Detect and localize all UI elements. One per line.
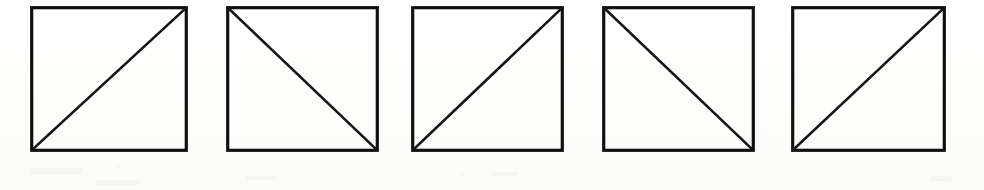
square-with-diagonal-4: [602, 6, 755, 152]
square-with-diagonal-5: [791, 6, 946, 152]
diagonal-bottom-left-to-top-right-5: [793, 8, 943, 149]
square-cell-2: [226, 6, 379, 152]
scan-smudge-1: [30, 168, 82, 174]
diagonal-top-left-to-bottom-right-2: [228, 8, 376, 149]
square-cell-3: [411, 6, 564, 152]
scan-smudge-2: [96, 180, 140, 185]
scan-smudge-4: [492, 172, 518, 176]
diagonal-top-left-to-bottom-right-4: [604, 8, 752, 149]
scan-smudge-3: [246, 176, 276, 180]
diagonal-bottom-left-to-top-right-3: [413, 8, 561, 149]
square-with-diagonal-1: [30, 6, 188, 152]
scan-smudge-5: [930, 176, 952, 181]
square-cell-5: [791, 6, 946, 152]
figure-root: [0, 0, 984, 190]
square-cell-4: [602, 6, 755, 152]
square-cell-1: [30, 6, 188, 152]
square-with-diagonal-3: [411, 6, 564, 152]
square-with-diagonal-2: [226, 6, 379, 152]
diagonal-bottom-left-to-top-right-1: [32, 8, 185, 149]
